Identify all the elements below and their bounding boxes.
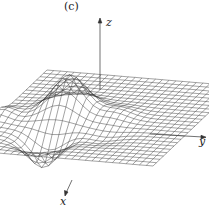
panel-label: (c) [64,0,79,13]
x-axis [66,180,72,193]
mesh-lines [0,70,209,168]
x-axis-label: x [60,195,66,208]
y-axis-label: y [199,135,205,148]
z-axis-label: z [106,16,112,29]
wireframe-mesh [0,70,209,168]
z-axis-arrowhead [98,18,102,23]
surface-mesh-plot [0,0,209,213]
